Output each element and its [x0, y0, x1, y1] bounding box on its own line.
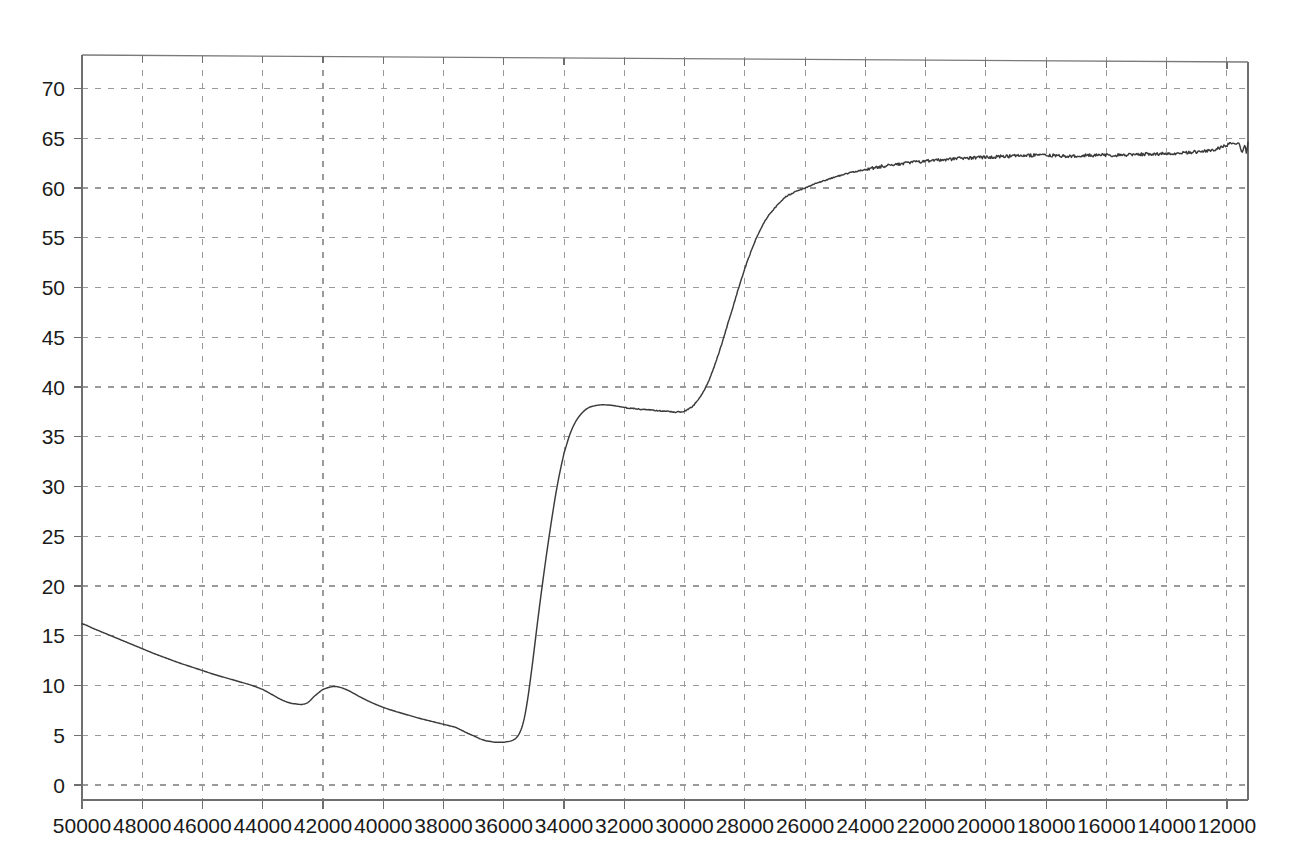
data-curve-transmittance [82, 142, 1248, 742]
y-tick-label: 45 [42, 326, 65, 349]
x-tick-label: 16000 [1077, 814, 1135, 837]
x-tick-label: 32000 [595, 814, 653, 837]
y-tick-label: 60 [42, 177, 65, 200]
y-tick-label: 25 [42, 525, 65, 548]
plot-top-border [82, 55, 1248, 62]
y-tick-label: 10 [42, 674, 65, 697]
y-tick-label: 0 [53, 774, 65, 797]
y-tick-label: 35 [42, 425, 65, 448]
x-tick-label: 40000 [354, 814, 412, 837]
y-tick-label: 15 [42, 624, 65, 647]
x-axis-tick-labels: 5000048000460004400042000400003800036000… [53, 814, 1256, 837]
x-tick-label: 44000 [234, 814, 292, 837]
x-tick-label: 18000 [1017, 814, 1075, 837]
y-tick-label: 5 [53, 724, 65, 747]
tick-marks-layer [74, 55, 1227, 809]
y-tick-label: 70 [42, 77, 65, 100]
x-tick-label: 38000 [414, 814, 472, 837]
line-chart: 0510152025303540455055606570 50000480004… [0, 0, 1291, 867]
x-tick-label: 14000 [1137, 814, 1195, 837]
x-tick-label: 46000 [173, 814, 231, 837]
x-tick-label: 36000 [475, 814, 533, 837]
chart-container: 0510152025303540455055606570 50000480004… [0, 0, 1291, 867]
y-tick-label: 30 [42, 475, 65, 498]
x-tick-label: 22000 [896, 814, 954, 837]
y-tick-label: 40 [42, 376, 65, 399]
x-tick-label: 20000 [957, 814, 1015, 837]
x-tick-label: 48000 [113, 814, 171, 837]
x-tick-label: 12000 [1198, 814, 1256, 837]
data-series-layer [82, 142, 1248, 742]
y-tick-label: 20 [42, 575, 65, 598]
y-tick-label: 55 [42, 226, 65, 249]
grid-layer [82, 57, 1248, 800]
x-tick-label: 28000 [716, 814, 774, 837]
x-tick-label: 34000 [535, 814, 593, 837]
axis-layer [82, 55, 1248, 800]
x-tick-label: 42000 [294, 814, 352, 837]
x-tick-label: 26000 [776, 814, 834, 837]
x-tick-label: 50000 [53, 814, 111, 837]
y-tick-label: 50 [42, 276, 65, 299]
x-tick-label: 30000 [655, 814, 713, 837]
y-tick-label: 65 [42, 127, 65, 150]
y-axis-tick-labels: 0510152025303540455055606570 [42, 77, 65, 797]
x-tick-label: 24000 [836, 814, 894, 837]
